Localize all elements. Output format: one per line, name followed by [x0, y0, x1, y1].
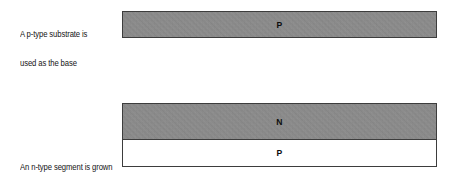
caption-substrate-line-2: used as the base [20, 59, 87, 69]
layer-label-n-epitaxial: N [123, 117, 436, 127]
substrate-layer-stack: P [122, 11, 437, 38]
caption-substrate-line-1: A p-type substrate is [20, 30, 87, 40]
caption-substrate-step: A p-type substrate is used as the base [20, 11, 87, 88]
caption-epitaxial-step: An n-type segment is grown epitaxially o… [20, 144, 112, 183]
epitaxial-layer-stack: N P [122, 103, 437, 166]
fabrication-step-diagram: A p-type substrate is used as the base P… [0, 0, 454, 183]
layer-p-substrate-lower: P [122, 140, 437, 167]
layer-p-substrate: P [122, 11, 437, 38]
layer-n-epitaxial: N [122, 103, 437, 140]
layer-label-p-substrate-lower: P [123, 148, 436, 158]
layer-label-p-substrate: P [123, 20, 436, 30]
caption-epitaxial-line-1: An n-type segment is grown [20, 163, 112, 173]
